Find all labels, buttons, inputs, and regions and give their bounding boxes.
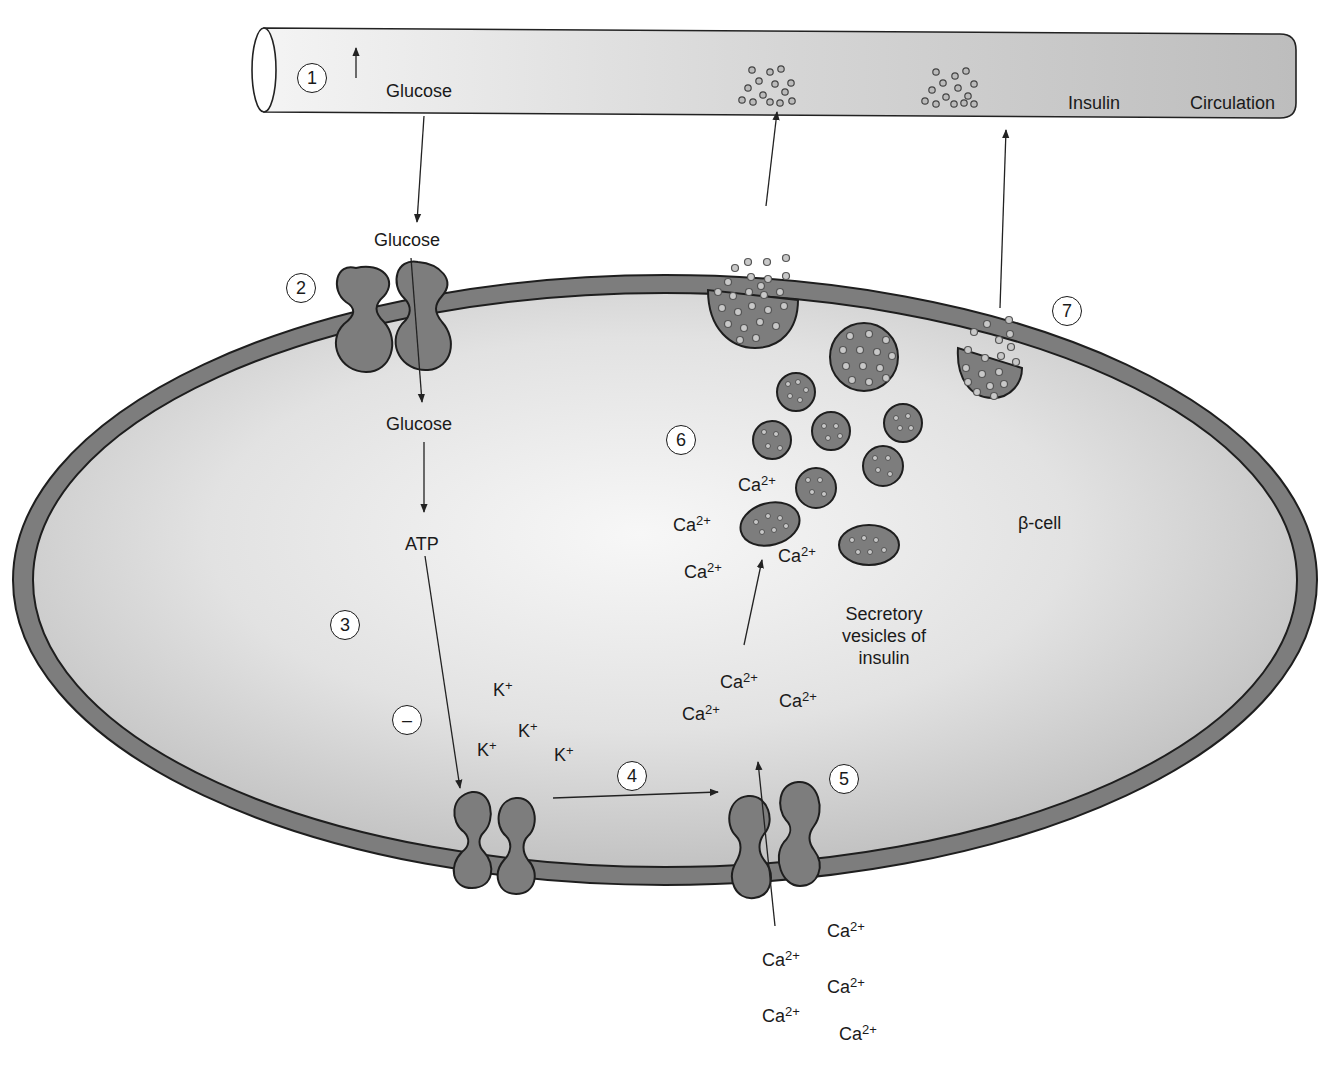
inhibition-minus-marker: – xyxy=(392,705,422,735)
ion-symbol: Ca xyxy=(762,1006,785,1026)
vesicles-label-line-1: Secretory xyxy=(826,603,942,625)
ion-symbol: Ca xyxy=(779,691,802,711)
ion-charge: 2+ xyxy=(785,948,800,963)
potassium-ion: K+ xyxy=(477,741,497,759)
insulin-secretion-diagram: Glucose Insulin Circulation Glucose Gluc… xyxy=(0,0,1341,1069)
ion-symbol: K xyxy=(493,680,505,700)
insulin-label: Insulin xyxy=(1068,94,1120,112)
step-7-marker: 7 xyxy=(1052,296,1082,326)
ion-charge: + xyxy=(530,719,538,734)
ion-symbol: Ca xyxy=(827,921,850,941)
ion-charge: 2+ xyxy=(761,473,776,488)
ion-symbol: K xyxy=(554,745,566,765)
calcium-ion-extracellular: Ca2+ xyxy=(762,951,800,969)
exocytosing-vesicle xyxy=(708,255,798,349)
vesicles-label-line-2: vesicles of xyxy=(826,625,942,647)
ion-symbol: K xyxy=(518,721,530,741)
glucose-inside-label: Glucose xyxy=(386,415,452,433)
step-2-marker: 2 xyxy=(286,273,316,303)
step-5-marker: 5 xyxy=(829,764,859,794)
ion-charge: 2+ xyxy=(862,1022,877,1037)
ion-symbol: Ca xyxy=(720,672,743,692)
calcium-ion: Ca2+ xyxy=(684,563,722,581)
blood-vessel xyxy=(252,28,1296,118)
calcium-ion: Ca2+ xyxy=(673,516,711,534)
calcium-ion-extracellular: Ca2+ xyxy=(827,922,865,940)
ion-charge: 2+ xyxy=(705,702,720,717)
calcium-ion: Ca2+ xyxy=(738,476,776,494)
diagram-canvas xyxy=(0,0,1341,1069)
vesicles-label-line-3: insulin xyxy=(826,647,942,669)
potassium-ion: K+ xyxy=(518,722,538,740)
ion-symbol: Ca xyxy=(684,562,707,582)
ion-symbol: Ca xyxy=(827,977,850,997)
potassium-ion: K+ xyxy=(554,746,574,764)
ion-symbol: Ca xyxy=(762,950,785,970)
ion-charge: 2+ xyxy=(743,670,758,685)
ion-symbol: Ca xyxy=(673,515,696,535)
calcium-ion: Ca2+ xyxy=(779,692,817,710)
circulation-label: Circulation xyxy=(1190,94,1275,112)
step-3-marker: 3 xyxy=(330,610,360,640)
docking-vesicle xyxy=(830,323,898,391)
ion-charge: 2+ xyxy=(850,919,865,934)
potassium-ion: K+ xyxy=(493,681,513,699)
ion-symbol: K xyxy=(477,740,489,760)
glucose-outside-label: Glucose xyxy=(374,231,440,249)
ion-charge: + xyxy=(566,743,574,758)
ion-symbol: Ca xyxy=(738,475,761,495)
ion-symbol: Ca xyxy=(839,1024,862,1044)
step-1-marker: 1 xyxy=(297,63,327,93)
calcium-ion: Ca2+ xyxy=(682,705,720,723)
calcium-ion: Ca2+ xyxy=(720,673,758,691)
ion-charge: 2+ xyxy=(707,560,722,575)
step-4-marker: 4 xyxy=(617,761,647,791)
ion-symbol: Ca xyxy=(682,704,705,724)
ion-charge: 2+ xyxy=(850,975,865,990)
ion-charge: + xyxy=(489,738,497,753)
glucose-blood-label: Glucose xyxy=(386,82,452,100)
ion-charge: + xyxy=(505,678,513,693)
ion-charge: 2+ xyxy=(801,544,816,559)
atp-label: ATP xyxy=(405,535,439,553)
ion-charge: 2+ xyxy=(802,689,817,704)
calcium-ion-extracellular: Ca2+ xyxy=(827,978,865,996)
secretory-vesicles-label: Secretory vesicles of insulin xyxy=(826,603,942,669)
calcium-ion-extracellular: Ca2+ xyxy=(762,1007,800,1025)
ion-charge: 2+ xyxy=(785,1004,800,1019)
step-6-marker: 6 xyxy=(666,425,696,455)
beta-cell-label: β-cell xyxy=(1018,514,1061,532)
calcium-ion: Ca2+ xyxy=(778,547,816,565)
calcium-ion-extracellular: Ca2+ xyxy=(839,1025,877,1043)
ion-symbol: Ca xyxy=(778,546,801,566)
ion-charge: 2+ xyxy=(696,513,711,528)
